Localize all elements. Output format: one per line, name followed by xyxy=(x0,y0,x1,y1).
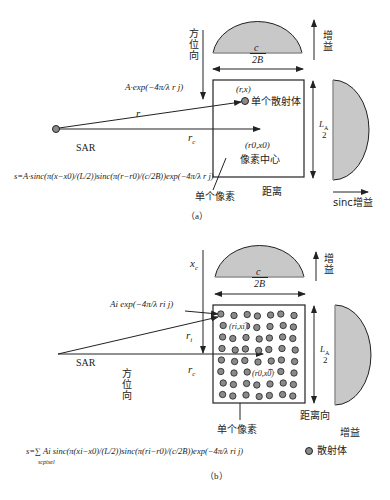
sinc-gain-label-a: sinc增益 xyxy=(333,198,373,208)
scatterer xyxy=(291,358,297,364)
r-label-a: r xyxy=(136,108,140,119)
pixel-center-coord-a: (r0,x0) xyxy=(245,141,270,150)
scatterer xyxy=(254,382,260,388)
caption-a: （a） xyxy=(186,212,208,221)
sar-position xyxy=(53,126,60,133)
scatterer xyxy=(266,346,272,352)
scatterer xyxy=(230,393,236,399)
scatterer xyxy=(280,322,286,328)
range-label-a: 距离 xyxy=(262,187,282,197)
range-width-num-a: c xyxy=(254,43,258,53)
scatterer xyxy=(243,334,249,340)
scatterer xyxy=(230,335,236,341)
azimuth-label-a: 方位向 xyxy=(187,28,197,61)
scatterer xyxy=(231,312,237,318)
azimuth-label-b: 方位向 xyxy=(120,368,130,401)
range-width-den-a: 2B xyxy=(252,55,263,65)
single-pixel-label-a: 单个像素 xyxy=(195,192,235,202)
scatterer xyxy=(230,381,236,387)
sar-label-a: SAR xyxy=(76,143,95,153)
scatterer xyxy=(280,380,286,386)
scatterer xyxy=(279,334,285,340)
scatterer xyxy=(220,322,226,328)
scatterer xyxy=(291,370,297,376)
gain-label-a: 增益 xyxy=(321,30,331,52)
rc-label-a: rc xyxy=(188,132,195,146)
scatterer xyxy=(268,358,274,364)
scatterer xyxy=(243,392,249,398)
scatterer xyxy=(255,359,261,365)
caption-b: （b） xyxy=(205,472,228,481)
signal-expr-a: A·exp(−4π/λ r j) xyxy=(125,83,183,92)
pixel-center-coord-b: (r0,x0) xyxy=(252,370,274,378)
rc-label-b: rc xyxy=(188,364,195,378)
formula-a: s=A·sinc(π(x−x0)/(L/2))sinc(π(r−r0)/(c/2… xyxy=(14,172,214,181)
sum-subscript: scpixel xyxy=(38,459,55,465)
azimuth-gain-lobe-b xyxy=(335,305,371,405)
scatterer xyxy=(266,392,272,398)
diagram-graphics xyxy=(0,0,390,500)
range-width-num-b: c xyxy=(256,267,260,277)
scatterer xyxy=(290,335,296,341)
scatterer xyxy=(231,358,237,364)
azimuth-height-b: LA2 xyxy=(320,345,329,365)
scatterer xyxy=(254,313,260,319)
scatterer xyxy=(218,368,224,374)
scatterer xyxy=(278,357,284,363)
scatterer xyxy=(244,369,250,375)
scatterer-coord-a: (r,x) xyxy=(236,85,251,94)
scatterer xyxy=(278,311,284,317)
scatterer xyxy=(290,324,296,330)
xc-label-b: xc xyxy=(190,258,198,272)
formula-b: s=∑ Ai sinc(π(xi−x0)/(L/2))sinc(π(ri−r0)… xyxy=(26,447,243,456)
gain-label-b: 增益 xyxy=(322,253,332,275)
scatterer xyxy=(290,381,296,387)
scatterer xyxy=(244,311,250,317)
ri-line xyxy=(58,317,218,354)
scatterer xyxy=(243,380,249,386)
scatterer-i-coord: (ri,xi) xyxy=(229,323,247,331)
scatterer xyxy=(279,391,285,397)
gain-label-b2: 增益 xyxy=(340,428,360,438)
scatterer xyxy=(218,357,224,363)
scatterer xyxy=(267,381,273,387)
scatterer xyxy=(291,312,297,318)
pixel-center-label-a: 像素中心 xyxy=(240,155,280,165)
legend-scatterer-icon xyxy=(306,448,313,455)
scatterer xyxy=(290,393,296,399)
azimuth-height-a: LA2 xyxy=(319,120,328,140)
scatterer xyxy=(255,347,261,353)
single-pixel-label-b: 单个像素 xyxy=(217,425,257,435)
scatterer xyxy=(256,393,262,399)
scatterer xyxy=(219,345,225,351)
scatterer xyxy=(256,336,262,342)
scatterer xyxy=(231,370,237,376)
scatterer xyxy=(219,334,225,340)
scatterer xyxy=(242,357,248,363)
pixel-pointer xyxy=(213,158,226,190)
range-width-den-b: 2B xyxy=(254,279,265,289)
scatterer xyxy=(242,346,248,352)
scatterer xyxy=(232,347,238,353)
scatterer xyxy=(219,391,225,397)
r-line xyxy=(59,102,241,128)
ri-label-b: ri xyxy=(186,330,192,344)
scatterer xyxy=(279,345,285,351)
scatterer xyxy=(242,98,249,105)
scatterer xyxy=(266,335,272,341)
legend-scatterer-label: 散射体 xyxy=(317,446,347,456)
scatterer xyxy=(254,324,260,330)
signal-expr-b: Ai exp(−4π/λ ri j) xyxy=(110,300,173,309)
scatterer xyxy=(292,347,298,353)
scatterer xyxy=(267,323,273,329)
range-label-b: 距离向 xyxy=(300,411,330,421)
scatterer-label-a: 单个散射体 xyxy=(251,97,301,107)
sar-label-b: SAR xyxy=(76,358,95,368)
scatterer xyxy=(220,380,226,386)
scatterer xyxy=(278,368,284,374)
scatterer xyxy=(218,311,224,317)
scatterer xyxy=(267,312,273,318)
azimuth-gain-lobe xyxy=(333,80,369,180)
